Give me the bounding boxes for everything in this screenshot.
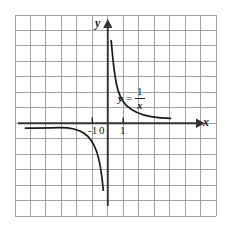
x-tick-label-neg1: -1 (88, 125, 97, 136)
coordinate-plane-svg (0, 0, 234, 230)
fraction-denominator: x (135, 99, 145, 111)
x-axis-label: x (203, 116, 209, 128)
equation-annotation: y = 1 x (118, 86, 145, 111)
graph-figure: y x -1 0 1 y = 1 x (0, 0, 234, 230)
equation-lhs: y (118, 93, 123, 104)
fraction-numerator: 1 (135, 86, 145, 98)
equation-fraction: 1 x (135, 86, 145, 111)
x-tick-label-one: 1 (120, 125, 126, 136)
grid-background (15, 15, 216, 216)
y-axis-label: y (95, 17, 100, 29)
origin-label: 0 (99, 125, 105, 136)
equation-equals-sign: = (125, 93, 133, 104)
